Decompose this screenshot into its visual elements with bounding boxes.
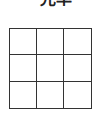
grid-cell [10,82,37,108]
grid-cell [10,29,37,55]
grid-cell [37,29,64,55]
diagram-title: 光率 [0,0,111,8]
grid-cell [64,82,91,108]
grid-cell [37,55,64,81]
grid-cell [37,82,64,108]
grid-cell [10,55,37,81]
grid-cell [64,29,91,55]
grid-cell [64,55,91,81]
three-by-three-grid [9,28,92,109]
